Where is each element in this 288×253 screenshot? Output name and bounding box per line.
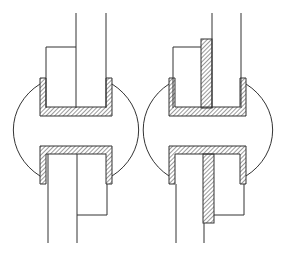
- right-joint-diagram: [143, 13, 272, 243]
- right-lower-step: [214, 184, 244, 215]
- left-upper-step: [46, 47, 76, 108]
- left-joint-diagram: [13, 13, 138, 243]
- left-lower-step: [77, 184, 107, 215]
- right-lower-hatched-bar: [203, 154, 214, 223]
- right-upper-hatched-bar: [201, 39, 212, 108]
- right-upper-step: [173, 47, 201, 108]
- right-clamp-arc-right: [246, 84, 273, 176]
- left-lower-cup: [40, 146, 112, 184]
- diagram-canvas: [0, 0, 288, 253]
- left-clamp-arc-right: [112, 84, 139, 176]
- right-clamp-arc: [143, 84, 169, 176]
- left-clamp-arc: [13, 84, 40, 176]
